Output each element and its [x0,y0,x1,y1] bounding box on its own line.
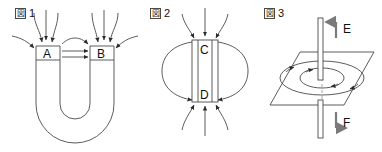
figure-panel-1: 図 1 [0,0,150,152]
pole-label-d: D [200,88,209,102]
figure-3-drawing: E F [262,0,382,152]
pole-label-c: C [200,43,209,57]
gap-field-line-1 [62,38,88,44]
top-field-line-right [216,14,228,38]
right-loop-field-line [218,42,248,100]
field-line-b-1 [92,13,98,42]
physics-figure-sheet: 図 1 [0,0,382,152]
bottom-field-line-right [216,105,228,130]
field-line-b-4 [116,36,138,48]
pole-label-a: A [43,47,51,61]
vector-label-e: E [343,22,351,36]
field-line-a-4 [12,36,34,48]
left-loop-field-line [162,42,192,100]
figure-panel-2: 図 2 [150,0,262,152]
wire-upper-segment [318,18,323,80]
vector-label-f: F [343,116,350,130]
field-line-a-3 [52,13,58,42]
top-field-line-left [182,14,194,38]
pole-label-b: B [97,47,105,61]
figure-1-drawing: A B [0,0,150,152]
figure-panel-3: 図 3 [262,0,382,152]
field-line-b-3 [110,13,118,42]
figure-2-drawing: C D [150,0,262,152]
bottom-field-line-left [182,105,194,130]
wire-lower-segment [318,100,323,138]
field-line-a-1 [34,13,42,42]
